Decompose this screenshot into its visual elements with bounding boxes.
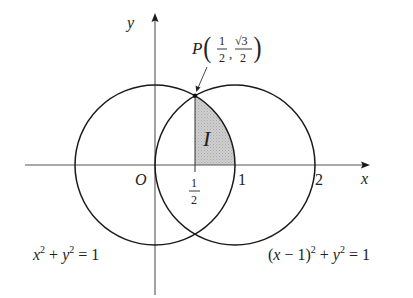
point-P-x-denominator: 2	[219, 51, 225, 65]
point-P-y-numerator: √3	[235, 34, 248, 48]
shaded-region-I	[195, 96, 235, 165]
y-axis	[152, 13, 159, 295]
diagram-canvas: P ( 1 2 , √3 2 ) I y x O 1 2 1 2 x2 + y2…	[0, 0, 413, 298]
origin-label: O	[135, 171, 147, 188]
point-P-x-numerator: 1	[219, 34, 225, 48]
open-paren: (	[203, 30, 211, 63]
tick-half-denominator: 2	[191, 193, 197, 207]
point-P-pointer	[198, 67, 208, 89]
comma: ,	[229, 46, 232, 61]
point-P-name: P	[191, 39, 202, 58]
right-circle-equation: (x − 1)2 + y2 = 1	[268, 244, 370, 264]
point-P-label: P ( 1 2 , √3 2 )	[191, 30, 262, 65]
left-circle-equation: x2 + y2 = 1	[32, 244, 99, 264]
tick-half: 1 2	[189, 176, 200, 207]
x-axis-label: x	[360, 170, 368, 187]
tick-1-label: 1	[238, 171, 246, 188]
tick-half-numerator: 1	[191, 176, 197, 190]
point-P-y-denominator: 2	[240, 51, 246, 65]
tick-2-label: 2	[315, 171, 323, 188]
point-P-marker	[193, 93, 198, 98]
y-axis-label: y	[125, 14, 135, 32]
close-paren: )	[254, 30, 262, 63]
